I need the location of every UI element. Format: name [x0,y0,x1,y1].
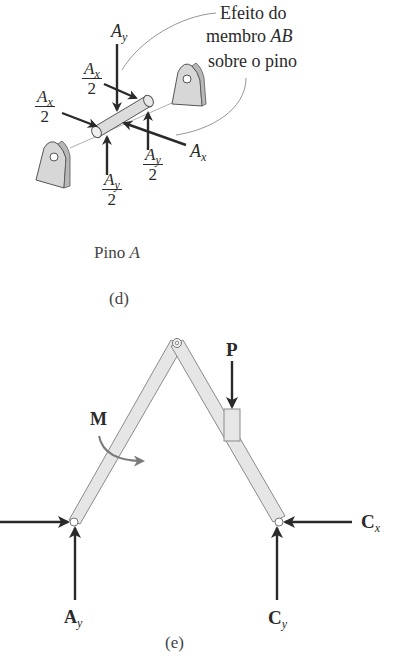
label-ay: Ay [64,608,82,626]
caption-e: (e) [165,634,184,651]
pin-a [70,518,78,526]
member-ab [69,340,183,524]
label-cx: Cx [361,512,380,531]
label-p: P [226,340,238,359]
frame-free-body-diagram [0,0,397,656]
pin-b [173,339,182,348]
label-m: M [90,410,107,428]
load-block [224,409,240,441]
pin-c [275,518,283,526]
label-cy: Cy [268,608,287,627]
